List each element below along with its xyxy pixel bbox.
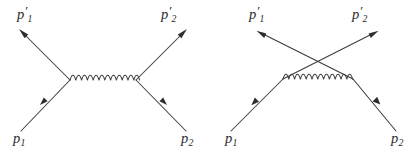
left-incoming-lower-right-midarrow [159,97,167,105]
left-incoming-lower-right-line [136,80,186,131]
left-label-incoming-p2-base: p [181,130,188,146]
right-incoming-lower-right-line [353,79,396,131]
right-outgoing-upper-right-line [283,33,374,79]
right-label-outgoing-p2-prime-sub: 2 [362,13,367,24]
left-label-outgoing-p2-prime-sub: 2 [171,13,176,24]
right-label-incoming-p1-base: p [225,130,232,146]
right-incoming-lower-left-line [231,79,283,131]
left-photon-propagator [70,75,140,80]
right-outgoing-upper-left-line [261,33,353,79]
right-label-incoming-p2-base: p [391,130,398,146]
left-diagram-group [19,29,187,131]
left-outgoing-upper-left-line [23,33,70,80]
left-label-incoming-p1-sub: 1 [21,137,26,148]
right-label-incoming-p2: p2 [391,131,403,146]
right-photon-propagator [283,74,353,79]
right-label-incoming-p1: p1 [225,131,237,146]
left-label-incoming-p1-base: p [13,130,20,146]
right-incoming-lower-right-midarrow [373,97,381,105]
right-outgoing-upper-left-arrowhead [257,31,267,38]
right-label-outgoing-p1-prime: p′1 [249,7,264,22]
left-incoming-lower-left-line [21,80,70,131]
left-label-incoming-p2: p2 [181,131,193,146]
left-label-incoming-p1: p1 [13,131,25,146]
right-label-incoming-p2-sub: 2 [399,137,404,148]
left-outgoing-upper-right-line [136,33,183,80]
right-outgoing-upper-right-arrowhead [369,31,379,38]
diagram-canvas [0,0,420,153]
right-label-outgoing-p1-prime-sub: 1 [259,13,264,24]
left-label-outgoing-p1-prime: p′1 [17,7,32,22]
left-label-outgoing-p1-prime-sub: 1 [27,13,32,24]
right-diagram-group [231,31,396,131]
right-label-incoming-p1-sub: 1 [233,137,238,148]
right-label-outgoing-p2-prime: p′2 [352,7,367,22]
left-label-outgoing-p2-prime: p′2 [161,7,176,22]
feynman-diagram-figure: p′1 p′2 p1 p2 p′1 p′2 p1 p2 [0,0,420,153]
left-label-incoming-p2-sub: 2 [189,137,194,148]
